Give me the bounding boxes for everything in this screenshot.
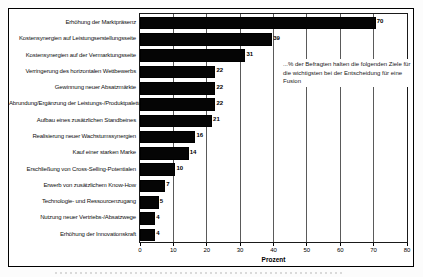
category-label: Abrundung/Ergänzung der Leistungs-/Produ…: [9, 95, 136, 111]
tick-mark: [240, 243, 241, 246]
category-label: Kauf einer starken Marke: [9, 144, 136, 160]
category-label: Gewinnung neuer Absatzmärkte: [9, 79, 136, 95]
value-label: 22: [216, 100, 223, 106]
bar: [140, 49, 245, 62]
tick-label: 40: [264, 247, 284, 253]
cropped-caption-remnant: [55, 272, 345, 274]
value-label: 21: [213, 116, 220, 122]
annotation-note: ...% der Befragten halten die folgenden …: [281, 59, 411, 87]
bar: [140, 98, 215, 111]
value-label: 7: [166, 181, 169, 187]
category-label: Erwerb von zusätzlichem Know-How: [9, 177, 136, 193]
bar-row: 39: [140, 30, 407, 46]
bar-row: 10: [140, 161, 407, 177]
bar: [140, 131, 195, 144]
category-label: Kostensynergien auf Leistungserstellungs…: [9, 30, 136, 46]
bar-row: 21: [140, 112, 407, 128]
tick-mark: [140, 243, 141, 246]
value-label: 4: [156, 230, 159, 236]
tick-mark: [173, 243, 174, 246]
tick-label: 70: [364, 247, 384, 253]
bar: [140, 66, 215, 79]
tick-mark: [206, 243, 207, 246]
chart-frame: 703931222222211614107544 010203040506070…: [8, 8, 414, 267]
bar: [140, 33, 272, 46]
bar-row: 70: [140, 14, 407, 30]
bar: [140, 82, 215, 95]
bar-row: 14: [140, 144, 407, 160]
tick-mark: [373, 243, 374, 246]
category-label: Erschließung von Cross-Selling-Potential…: [9, 161, 136, 177]
tick-mark: [273, 243, 274, 246]
value-label: 4: [156, 214, 159, 220]
bar: [140, 163, 175, 176]
tick-label: 80: [397, 247, 417, 253]
category-label: Aufbau eines zusätzlichen Standbeines: [9, 112, 136, 128]
category-label: Nutzung neuer Vertriebs-/Absatzwege: [9, 209, 136, 225]
value-label: 70: [377, 18, 384, 24]
tick-mark: [407, 243, 408, 246]
value-label: 22: [216, 84, 223, 90]
tick-label: 60: [330, 247, 350, 253]
bar: [140, 147, 189, 160]
plot-area: 703931222222211614107544: [139, 13, 408, 243]
value-label: 39: [273, 35, 280, 41]
value-label: 5: [160, 198, 163, 204]
x-axis-title: Prozent: [139, 256, 408, 263]
tick-label: 50: [297, 247, 317, 253]
bar-row: 16: [140, 128, 407, 144]
tick-label: 10: [163, 247, 183, 253]
tick-mark: [306, 243, 307, 246]
value-label: 31: [246, 51, 253, 57]
bar-row: 22: [140, 95, 407, 111]
bar: [140, 115, 212, 128]
bar-row: 5: [140, 193, 407, 209]
tick-label: 30: [230, 247, 250, 253]
tick-mark: [340, 243, 341, 246]
category-label: Erhöhung der Marktpräsenz: [9, 14, 136, 30]
value-label: 16: [196, 132, 203, 138]
value-label: 22: [216, 67, 223, 73]
value-label: 14: [190, 149, 197, 155]
figure-canvas: 703931222222211614107544 010203040506070…: [0, 0, 423, 277]
tick-label: 0: [130, 247, 150, 253]
category-label: Realisierung neuer Wachstumssynergien: [9, 128, 136, 144]
category-label: Erhöhung der Innovationskraft: [9, 226, 136, 242]
category-label: Kostensynergien auf der Vermarktungsseit…: [9, 47, 136, 63]
bar: [140, 212, 155, 225]
bar: [140, 17, 376, 30]
category-label: Technologie- und Ressourcenzugang: [9, 193, 136, 209]
bar: [140, 229, 155, 242]
tick-label: 20: [197, 247, 217, 253]
value-label: 10: [176, 165, 183, 171]
bar: [140, 196, 159, 209]
bar-row: 4: [140, 209, 407, 225]
bar: [140, 180, 165, 193]
bar-row: 4: [140, 226, 407, 242]
category-label: Verringerung des horizontalen Wettbewerb…: [9, 63, 136, 79]
bar-row: 7: [140, 177, 407, 193]
